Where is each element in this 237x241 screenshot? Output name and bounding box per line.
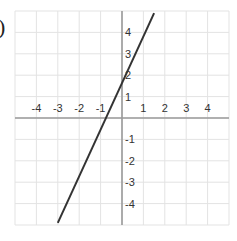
x-tick-label: -3 (53, 102, 63, 114)
y-tick-label: -3 (125, 176, 135, 188)
x-tick-labels: -4-3-2-11234 (32, 102, 211, 114)
x-tick-label: 2 (162, 102, 168, 114)
x-tick-label: -2 (74, 102, 84, 114)
x-tick-label: 1 (140, 102, 146, 114)
y-tick-label: 1 (125, 91, 131, 103)
y-tick-label: 4 (125, 26, 131, 38)
y-tick-label: -1 (125, 133, 135, 145)
x-tick-label: -1 (96, 102, 106, 114)
x-tick-label: -4 (32, 102, 42, 114)
coordinate-plane: -4-3-2-11234 4321-1-2-3-4 (0, 0, 237, 241)
y-tick-label: -4 (125, 198, 135, 210)
y-tick-label: -2 (125, 155, 135, 167)
x-tick-label: 3 (183, 102, 189, 114)
x-tick-label: 4 (205, 102, 211, 114)
axes (15, 11, 229, 225)
y-tick-label: 3 (125, 48, 131, 60)
